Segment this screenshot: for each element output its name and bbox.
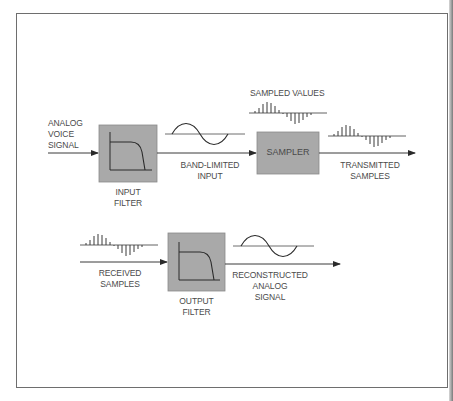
label-output-filter: OUTPUT FILTER [168, 296, 225, 318]
label-sampled-values: SAMPLED VALUES [250, 88, 325, 99]
band-limited-waveform [165, 124, 245, 145]
label-sampler: SAMPLER [257, 147, 319, 157]
input-filter-block [99, 125, 157, 182]
transmitted-samples-waveform [328, 125, 406, 147]
sampled-values-waveform [249, 102, 327, 124]
reconstructed-waveform [233, 236, 314, 257]
output-filter-block [168, 233, 225, 291]
received-samples-waveform [80, 234, 158, 256]
label-transmitted-samples: TRANSMITTED SAMPLES [335, 160, 405, 182]
pcm-block-diagram [0, 0, 453, 401]
label-reconstructed-analog-signal: RECONSTRUCTED ANALOG SIGNAL [230, 270, 310, 303]
label-analog-voice-signal: ANALOG VOICE SIGNAL [48, 118, 83, 151]
label-received-samples: RECEIVED SAMPLES [90, 268, 150, 290]
label-band-limited-input: BAND-LIMITED INPUT [170, 160, 250, 182]
label-input-filter: INPUT FILTER [103, 187, 153, 209]
